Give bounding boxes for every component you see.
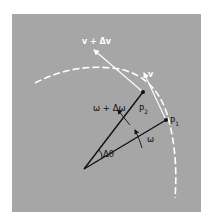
circular-motion-diagram: v + Δv v ω + Δω ω Δθ P2 P1: [0, 0, 211, 221]
label-delta-theta: Δθ: [103, 149, 114, 159]
point-p1-dot: [164, 118, 168, 122]
point-p2-dot: [141, 90, 145, 94]
label-omega-plus-domega: ω + Δω: [93, 103, 126, 113]
label-omega: ω: [147, 134, 154, 144]
label-v-plus-dv: v + Δv: [82, 37, 112, 46]
label-v: v: [148, 70, 154, 79]
